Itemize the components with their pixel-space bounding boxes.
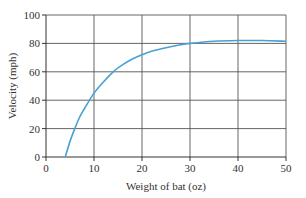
velocity-vs-bat-weight-chart: 02040608010001020304050 Weight of bat (o… xyxy=(0,0,306,198)
x-tick-label: 20 xyxy=(137,162,149,174)
x-tick-label: 30 xyxy=(185,162,197,174)
y-tick-label: 0 xyxy=(35,151,41,163)
x-tick-label: 10 xyxy=(89,162,101,174)
y-tick-label: 20 xyxy=(29,123,41,135)
tick-labels: 02040608010001020304050 xyxy=(24,9,293,174)
y-tick-label: 60 xyxy=(29,66,41,78)
x-tick-label: 50 xyxy=(281,162,293,174)
x-tick-label: 40 xyxy=(233,162,245,174)
x-tick-label: 0 xyxy=(43,162,49,174)
y-tick-label: 100 xyxy=(24,9,41,21)
x-axis-label: Weight of bat (oz) xyxy=(126,180,206,193)
axes xyxy=(42,15,286,161)
y-tick-label: 40 xyxy=(29,94,41,106)
y-axis-label: Velocity (mph) xyxy=(6,53,19,120)
y-tick-label: 80 xyxy=(29,37,41,49)
grid xyxy=(46,15,286,157)
velocity-curve xyxy=(65,40,286,157)
